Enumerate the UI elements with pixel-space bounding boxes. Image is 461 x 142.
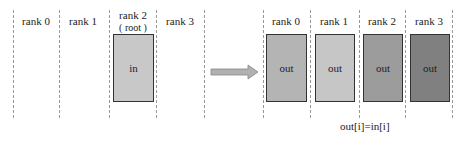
rank-label: rank 0	[263, 15, 309, 27]
equation: out[i]=in[i]	[340, 120, 390, 132]
buffer-label: out	[376, 62, 390, 74]
arrow-icon	[210, 64, 260, 80]
rank-label: rank 2	[110, 9, 156, 21]
divider	[452, 10, 453, 118]
rank-label: rank 1	[60, 15, 106, 27]
out-buffer: out	[315, 34, 355, 102]
out-buffer: out	[410, 34, 450, 102]
buffer-label: in	[129, 62, 138, 74]
out-buffer: out	[266, 34, 307, 102]
out-buffer: out	[363, 34, 403, 102]
buffer-label: out	[279, 62, 293, 74]
rank-label: rank 3	[157, 15, 203, 27]
rank-label: rank 0	[13, 15, 59, 27]
rank-label: rank 1	[311, 15, 357, 27]
buffer-label: out	[423, 62, 437, 74]
rank-label: rank 2	[359, 15, 405, 27]
buffer-label: out	[328, 62, 342, 74]
rank-label: rank 3	[406, 15, 452, 27]
divider	[204, 10, 205, 118]
root-label: ( root )	[110, 22, 156, 34]
in-buffer: in	[113, 34, 154, 102]
